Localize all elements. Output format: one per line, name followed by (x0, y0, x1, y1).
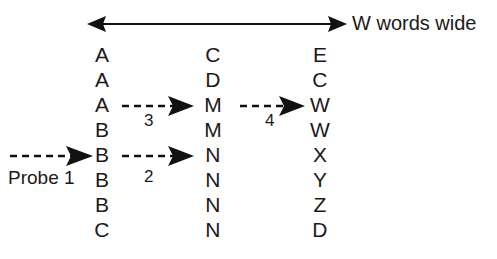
left-column-cell: B (82, 142, 122, 167)
middle-column-cell: N (193, 167, 233, 192)
probe-label: Probe 1 (8, 167, 75, 189)
left-column: A A A B B B B C (82, 42, 122, 242)
right-column-cell: X (300, 142, 340, 167)
width-double-arrow (87, 16, 347, 32)
left-column-cell: A (82, 92, 122, 117)
left-column-cell: B (82, 117, 122, 142)
left-column-cell: B (82, 192, 122, 217)
right-column: E C W W X Y Z D (300, 42, 340, 242)
right-column-cell: Z (300, 192, 340, 217)
middle-column-cell: N (193, 142, 233, 167)
left-column-cell: B (82, 167, 122, 192)
probe-arrow (10, 146, 93, 166)
step-3-arrow (122, 96, 194, 116)
step-4-label: 4 (265, 111, 274, 131)
step-3-label: 3 (144, 111, 153, 131)
step-2-label: 2 (144, 167, 153, 187)
width-annotation-label: W words wide (352, 12, 476, 35)
middle-column-cell: N (193, 217, 233, 242)
right-column-cell: D (300, 217, 340, 242)
middle-column-cell: M (193, 117, 233, 142)
right-column-cell: E (300, 42, 340, 67)
right-column-cell: W (300, 92, 340, 117)
step-2-arrow (122, 146, 194, 166)
right-column-cell: C (300, 67, 340, 92)
diagram-canvas: A A A B B B B C C D M M N N N N E C W W … (0, 0, 497, 259)
middle-column-cell: M (193, 92, 233, 117)
middle-column-cell: C (193, 42, 233, 67)
right-column-cell: Y (300, 167, 340, 192)
middle-column-cell: N (193, 192, 233, 217)
left-column-cell: A (82, 67, 122, 92)
middle-column-cell: D (193, 67, 233, 92)
arrows-overlay (0, 0, 497, 259)
left-column-cell: C (82, 217, 122, 242)
left-column-cell: A (82, 42, 122, 67)
middle-column: C D M M N N N N (193, 42, 233, 242)
right-column-cell: W (300, 117, 340, 142)
